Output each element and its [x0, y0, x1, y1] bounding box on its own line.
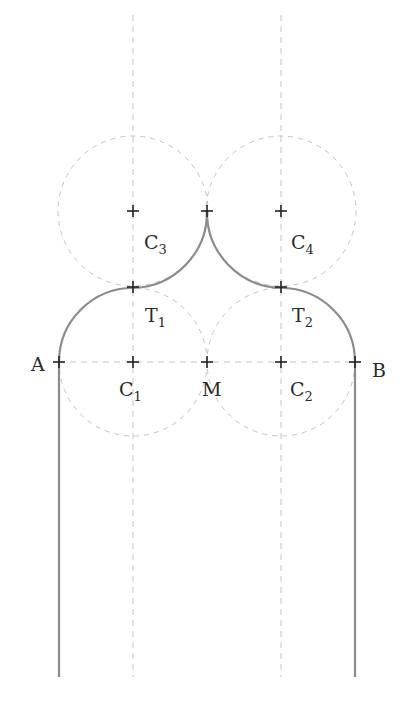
label-T2-subscript: 2: [305, 315, 313, 330]
marker-C4-icon: [275, 205, 287, 217]
label-C4-letter: C: [291, 231, 306, 253]
marker-C2-icon: [275, 356, 287, 368]
ogee-arch-construction-diagram: A B M C1 C2 C3 C4 T1 T2: [0, 0, 405, 716]
arch-outline: [59, 211, 355, 677]
label-C1: C1: [119, 378, 142, 404]
label-B: B: [372, 359, 386, 381]
label-T2-letter: T: [292, 304, 305, 326]
marker-A-icon: [53, 356, 65, 368]
marker-B-icon: [349, 356, 361, 368]
marker-C1-icon: [127, 356, 139, 368]
construction-lines: [59, 15, 355, 677]
label-C1-subscript: 1: [134, 389, 142, 404]
label-C2-subscript: 2: [305, 389, 313, 404]
label-C2: C2: [290, 378, 313, 404]
marker-T2-icon: [275, 281, 287, 293]
point-labels: A B M C1 C2 C3 C4 T1 T2: [30, 231, 386, 404]
label-C1-letter: C: [119, 378, 134, 400]
point-markers: [53, 205, 361, 368]
label-T2: T2: [292, 304, 313, 330]
label-C4: C4: [291, 231, 314, 257]
label-C3-letter: C: [144, 231, 159, 253]
marker-M-icon: [201, 356, 213, 368]
label-C2-letter: C: [290, 378, 305, 400]
label-A: A: [30, 353, 45, 375]
marker-T1-icon: [127, 281, 139, 293]
label-T1-subscript: 1: [158, 315, 166, 330]
label-C3: C3: [144, 231, 167, 257]
marker-C3-icon: [127, 205, 139, 217]
label-T1-letter: T: [145, 304, 158, 326]
label-M: M: [202, 378, 221, 400]
label-C3-subscript: 3: [159, 242, 167, 257]
marker-apex-icon: [201, 205, 213, 217]
diagram-canvas: A B M C1 C2 C3 C4 T1 T2: [0, 0, 405, 716]
label-C4-subscript: 4: [306, 242, 314, 257]
label-T1: T1: [145, 304, 166, 330]
